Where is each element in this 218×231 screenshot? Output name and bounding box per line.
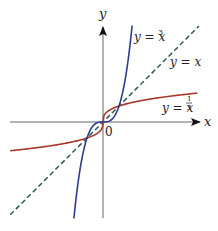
label-x: y = x [169, 55, 201, 69]
svg-text:1: 1 [187, 95, 191, 103]
label-cube-root: y = x 1 3 [161, 95, 193, 115]
label-x-cubed: y = x 3 [133, 28, 165, 44]
chart-svg: y x 0 y = x 3 y = x y = x 1 3 [0, 0, 218, 231]
svg-text:3: 3 [187, 104, 191, 112]
svg-text:y = x: y = x [169, 55, 201, 69]
svg-text:3: 3 [158, 28, 163, 37]
y-axis-label: y [98, 6, 107, 21]
x-axis-label: x [204, 114, 212, 129]
chart-figure: y x 0 y = x 3 y = x y = x 1 3 [0, 0, 218, 231]
origin-label: 0 [105, 125, 113, 139]
